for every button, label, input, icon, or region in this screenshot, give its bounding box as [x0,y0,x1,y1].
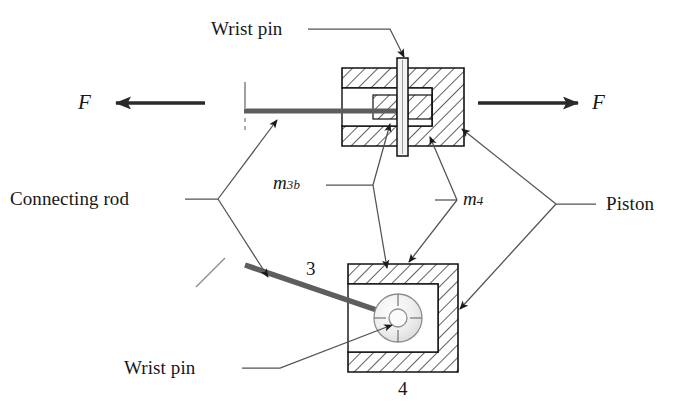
mass-rod-symbol: m [273,172,287,193]
label-connecting-rod: Connecting rod [10,188,129,210]
label-force-left: F [78,90,91,115]
bushing-left [373,95,397,119]
label-link-4: 4 [398,378,408,400]
diagram-canvas: Wrist pin F F Connecting rod Piston m3b … [0,0,674,409]
leader-piston-lower [460,204,556,309]
leader-m4-down [409,200,457,262]
rod-end-tick [196,258,225,287]
label-wrist-pin-bottom: Wrist pin [124,357,195,379]
leader-connecting-rod-lower [218,199,268,277]
label-piston: Piston [606,193,654,215]
wrist-pin-shaft [397,58,408,156]
leader-wrist-pin-top [308,29,404,57]
label-wrist-pin-top: Wrist pin [211,18,282,40]
label-mass-piston: m4 [463,188,483,210]
mass-piston-symbol: m [463,188,477,209]
bushing-right [408,95,432,119]
leader-m3b-down [373,185,387,268]
mass-rod-subscript: 3b [287,177,300,192]
label-mass-rod: m3b [273,172,300,194]
label-link-3: 3 [306,258,316,280]
label-force-right: F [592,90,605,115]
leader-connecting-rod-upper [218,120,277,199]
wrist-pin-hub [374,294,422,342]
mass-piston-subscript: 4 [477,193,484,208]
